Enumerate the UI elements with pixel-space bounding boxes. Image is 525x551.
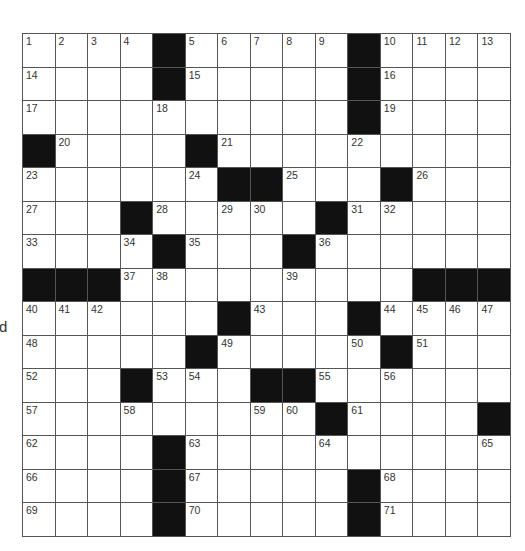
grid-cell[interactable]: 15 bbox=[186, 68, 218, 101]
grid-cell[interactable] bbox=[153, 135, 185, 168]
grid-cell[interactable] bbox=[186, 101, 218, 134]
grid-cell[interactable] bbox=[56, 403, 88, 436]
grid-cell[interactable] bbox=[121, 135, 153, 168]
grid-cell[interactable]: 56 bbox=[381, 369, 413, 402]
grid-cell[interactable]: 63 bbox=[186, 436, 218, 469]
grid-cell[interactable] bbox=[381, 135, 413, 168]
grid-cell[interactable]: 32 bbox=[381, 202, 413, 235]
grid-cell[interactable] bbox=[316, 503, 348, 536]
grid-cell[interactable]: 14 bbox=[23, 68, 55, 101]
grid-cell[interactable]: 21 bbox=[218, 135, 250, 168]
grid-cell[interactable] bbox=[251, 436, 283, 469]
grid-cell[interactable]: 36 bbox=[316, 235, 348, 268]
grid-cell[interactable] bbox=[121, 336, 153, 369]
grid-cell[interactable]: 70 bbox=[186, 503, 218, 536]
grid-cell[interactable] bbox=[251, 68, 283, 101]
grid-cell[interactable]: 28 bbox=[153, 202, 185, 235]
grid-cell[interactable] bbox=[381, 436, 413, 469]
grid-cell[interactable]: 6 bbox=[218, 34, 250, 67]
grid-cell[interactable]: 9 bbox=[316, 34, 348, 67]
grid-cell[interactable] bbox=[218, 403, 250, 436]
grid-cell[interactable]: 25 bbox=[283, 168, 315, 201]
grid-cell[interactable]: 11 bbox=[413, 34, 445, 67]
grid-cell[interactable] bbox=[478, 135, 510, 168]
grid-cell[interactable] bbox=[348, 269, 380, 302]
grid-cell[interactable] bbox=[121, 168, 153, 201]
grid-cell[interactable]: 46 bbox=[446, 302, 478, 335]
grid-cell[interactable]: 58 bbox=[121, 403, 153, 436]
grid-cell[interactable] bbox=[478, 168, 510, 201]
grid-cell[interactable] bbox=[88, 369, 120, 402]
grid-cell[interactable] bbox=[251, 135, 283, 168]
grid-cell[interactable] bbox=[446, 202, 478, 235]
grid-cell[interactable] bbox=[186, 269, 218, 302]
grid-cell[interactable] bbox=[283, 436, 315, 469]
grid-cell[interactable] bbox=[121, 470, 153, 503]
grid-cell[interactable]: 54 bbox=[186, 369, 218, 402]
grid-cell[interactable] bbox=[413, 470, 445, 503]
grid-cell[interactable]: 34 bbox=[121, 235, 153, 268]
grid-cell[interactable]: 71 bbox=[381, 503, 413, 536]
grid-cell[interactable]: 42 bbox=[88, 302, 120, 335]
grid-cell[interactable] bbox=[446, 101, 478, 134]
grid-cell[interactable]: 41 bbox=[56, 302, 88, 335]
grid-cell[interactable]: 64 bbox=[316, 436, 348, 469]
grid-cell[interactable]: 61 bbox=[348, 403, 380, 436]
grid-cell[interactable]: 37 bbox=[121, 269, 153, 302]
grid-cell[interactable] bbox=[316, 336, 348, 369]
grid-cell[interactable]: 18 bbox=[153, 101, 185, 134]
grid-cell[interactable] bbox=[88, 436, 120, 469]
grid-cell[interactable] bbox=[478, 470, 510, 503]
grid-cell[interactable] bbox=[316, 101, 348, 134]
grid-cell[interactable] bbox=[348, 436, 380, 469]
grid-cell[interactable] bbox=[348, 235, 380, 268]
grid-cell[interactable]: 3 bbox=[88, 34, 120, 67]
grid-cell[interactable]: 39 bbox=[283, 269, 315, 302]
grid-cell[interactable]: 31 bbox=[348, 202, 380, 235]
grid-cell[interactable]: 23 bbox=[23, 168, 55, 201]
grid-cell[interactable] bbox=[446, 503, 478, 536]
grid-cell[interactable] bbox=[446, 336, 478, 369]
grid-cell[interactable]: 4 bbox=[121, 34, 153, 67]
grid-cell[interactable] bbox=[218, 436, 250, 469]
grid-cell[interactable] bbox=[446, 135, 478, 168]
grid-cell[interactable]: 52 bbox=[23, 369, 55, 402]
grid-cell[interactable]: 10 bbox=[381, 34, 413, 67]
grid-cell[interactable] bbox=[56, 436, 88, 469]
grid-cell[interactable] bbox=[251, 336, 283, 369]
grid-cell[interactable] bbox=[88, 202, 120, 235]
grid-cell[interactable] bbox=[88, 503, 120, 536]
grid-cell[interactable] bbox=[88, 168, 120, 201]
grid-cell[interactable] bbox=[56, 101, 88, 134]
grid-cell[interactable] bbox=[186, 302, 218, 335]
grid-cell[interactable]: 16 bbox=[381, 68, 413, 101]
grid-cell[interactable]: 68 bbox=[381, 470, 413, 503]
grid-cell[interactable] bbox=[121, 436, 153, 469]
grid-cell[interactable] bbox=[478, 235, 510, 268]
grid-cell[interactable] bbox=[446, 369, 478, 402]
grid-cell[interactable] bbox=[56, 202, 88, 235]
grid-cell[interactable]: 57 bbox=[23, 403, 55, 436]
grid-cell[interactable] bbox=[446, 235, 478, 268]
grid-cell[interactable] bbox=[186, 403, 218, 436]
grid-cell[interactable] bbox=[413, 436, 445, 469]
grid-cell[interactable] bbox=[218, 235, 250, 268]
grid-cell[interactable] bbox=[88, 101, 120, 134]
grid-cell[interactable]: 30 bbox=[251, 202, 283, 235]
grid-cell[interactable]: 8 bbox=[283, 34, 315, 67]
grid-cell[interactable] bbox=[218, 269, 250, 302]
grid-cell[interactable] bbox=[153, 302, 185, 335]
grid-cell[interactable] bbox=[251, 470, 283, 503]
grid-cell[interactable]: 7 bbox=[251, 34, 283, 67]
grid-cell[interactable]: 45 bbox=[413, 302, 445, 335]
grid-cell[interactable]: 53 bbox=[153, 369, 185, 402]
grid-cell[interactable] bbox=[56, 470, 88, 503]
grid-cell[interactable] bbox=[381, 235, 413, 268]
grid-cell[interactable]: 33 bbox=[23, 235, 55, 268]
grid-cell[interactable]: 38 bbox=[153, 269, 185, 302]
grid-cell[interactable] bbox=[218, 470, 250, 503]
grid-cell[interactable] bbox=[478, 101, 510, 134]
grid-cell[interactable] bbox=[121, 302, 153, 335]
grid-cell[interactable] bbox=[413, 503, 445, 536]
grid-cell[interactable]: 26 bbox=[413, 168, 445, 201]
